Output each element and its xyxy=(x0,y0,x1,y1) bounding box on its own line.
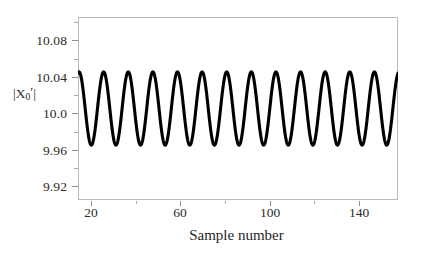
y-axis-title-suffix: | xyxy=(33,86,36,101)
y-axis-title: |X0′| xyxy=(13,85,36,102)
x-tick-label: 100 xyxy=(260,206,280,220)
y-tick-major xyxy=(72,77,78,78)
y-tick-label: 9.92 xyxy=(43,180,67,194)
y-tick-major xyxy=(72,40,78,41)
series-line-x0 xyxy=(78,72,398,145)
x-tick-label: 140 xyxy=(349,206,369,220)
y-tick-minor xyxy=(74,95,78,96)
waveform-plot xyxy=(78,17,398,200)
chart-figure: 10.08 10.04 10.0 9.96 9.92 |X0′| 20 60 1… xyxy=(0,0,441,255)
x-tick-minor xyxy=(314,201,315,204)
y-tick-label: 10.0 xyxy=(43,107,67,121)
y-tick-minor xyxy=(74,59,78,60)
y-axis-title-prefix: |X xyxy=(13,86,25,101)
x-tick-minor xyxy=(136,201,137,204)
x-tick-minor xyxy=(225,201,226,204)
y-tick-minor xyxy=(74,132,78,133)
x-tick-label: 60 xyxy=(173,206,187,220)
y-tick-minor xyxy=(74,22,78,23)
y-tick-label: 10.08 xyxy=(36,34,67,48)
y-tick-label: 10.04 xyxy=(36,71,67,85)
x-axis-title: Sample number xyxy=(0,228,441,243)
y-tick-minor xyxy=(74,168,78,169)
y-tick-label: 9.96 xyxy=(43,144,67,158)
y-tick-major xyxy=(72,113,78,114)
x-tick-label: 20 xyxy=(84,206,98,220)
y-tick-major xyxy=(72,186,78,187)
y-tick-major xyxy=(72,150,78,151)
